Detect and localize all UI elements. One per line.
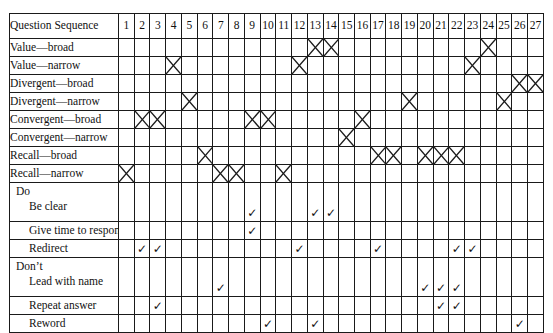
table-cell	[197, 165, 213, 183]
column-header-7: 7	[213, 14, 229, 39]
column-header-18: 18	[386, 14, 402, 39]
table-cell	[166, 147, 182, 165]
table-cell	[244, 315, 260, 333]
table-cell	[323, 258, 339, 297]
column-header-22: 22	[449, 14, 465, 39]
table-cell	[370, 222, 386, 240]
table-cell	[512, 240, 528, 258]
cross-mark-icon	[119, 165, 134, 182]
table-cell	[134, 147, 150, 165]
table-cell	[496, 165, 512, 183]
table-cell: ✓	[417, 258, 433, 297]
table-cell	[276, 258, 292, 297]
row-label-text: Lead with name	[29, 275, 103, 287]
table-cell	[449, 129, 465, 147]
column-header-14: 14	[323, 14, 339, 39]
column-header-3: 3	[150, 14, 166, 39]
table-cell	[496, 75, 512, 93]
table-cell	[276, 111, 292, 129]
cross-mark-icon	[135, 111, 150, 128]
table-cell	[370, 93, 386, 111]
table-cell	[512, 57, 528, 75]
table-cell	[276, 315, 292, 333]
table-cell	[229, 297, 245, 315]
check-mark-icon: ✓	[436, 300, 446, 312]
table-cell: ✓	[449, 240, 465, 258]
table-cell	[307, 57, 323, 75]
cross-mark-icon	[497, 93, 512, 110]
table-cell	[134, 93, 150, 111]
table-cell	[134, 57, 150, 75]
table-cell	[496, 183, 512, 222]
table-cell	[229, 129, 245, 147]
table-cell	[134, 315, 150, 333]
table-cell	[480, 93, 496, 111]
table-cell	[370, 258, 386, 297]
table-cell	[465, 165, 481, 183]
table-cell	[465, 111, 481, 129]
table-cell	[402, 147, 418, 165]
table-cell	[449, 39, 465, 57]
table-cell: ✓	[307, 183, 323, 222]
table-cell	[512, 222, 528, 240]
table-cell	[307, 147, 323, 165]
table-cell	[465, 315, 481, 333]
cross-mark-icon	[245, 111, 260, 128]
table-cell	[355, 222, 371, 240]
table-cell	[323, 315, 339, 333]
table-row: Divergent—narrow	[10, 93, 544, 111]
table-cell	[402, 258, 418, 297]
table-cell	[433, 129, 449, 147]
check-mark-icon: ✓	[137, 243, 147, 255]
column-header-16: 16	[355, 14, 371, 39]
table-cell	[307, 240, 323, 258]
table-cell	[449, 93, 465, 111]
table-cell	[260, 93, 276, 111]
table-cell	[323, 222, 339, 240]
table-cell	[528, 222, 544, 240]
table-cell	[339, 129, 355, 147]
table-cell	[402, 57, 418, 75]
table-cell	[480, 165, 496, 183]
table-cell	[260, 75, 276, 93]
row-label: Repeat answer	[10, 297, 119, 315]
check-mark-icon: ✓	[216, 282, 226, 294]
table-cell	[339, 111, 355, 129]
table-cell	[528, 165, 544, 183]
table-cell	[449, 111, 465, 129]
column-header-10: 10	[260, 14, 276, 39]
table-cell	[119, 315, 135, 333]
table-cell	[276, 165, 292, 183]
table-cell	[307, 39, 323, 57]
table-cell	[166, 93, 182, 111]
table-cell	[433, 315, 449, 333]
column-header-15: 15	[339, 14, 355, 39]
table-cell	[307, 93, 323, 111]
table-row: Convergent—broad	[10, 111, 544, 129]
table-cell	[386, 240, 402, 258]
table-cell	[355, 183, 371, 222]
table-cell	[213, 147, 229, 165]
row-label: Redirect	[10, 240, 119, 258]
table-row: DoBe clear✓✓✓	[10, 183, 544, 222]
table-cell: ✓	[449, 258, 465, 297]
column-header-4: 4	[166, 14, 182, 39]
cross-mark-icon	[150, 111, 165, 128]
table-cell	[512, 297, 528, 315]
table-cell	[213, 165, 229, 183]
table-cell	[213, 75, 229, 93]
table-cell	[370, 147, 386, 165]
table-cell	[181, 315, 197, 333]
table-cell	[134, 111, 150, 129]
table-cell	[323, 75, 339, 93]
table-cell	[150, 39, 166, 57]
question-sequence-table: Question Sequence 1234567891011121314151…	[9, 13, 544, 333]
table-cell	[276, 147, 292, 165]
table-cell: ✓	[323, 183, 339, 222]
column-header-19: 19	[402, 14, 418, 39]
table-cell	[119, 75, 135, 93]
table-cell	[150, 57, 166, 75]
table-cell: ✓	[260, 315, 276, 333]
table-cell	[370, 315, 386, 333]
table-cell	[528, 129, 544, 147]
